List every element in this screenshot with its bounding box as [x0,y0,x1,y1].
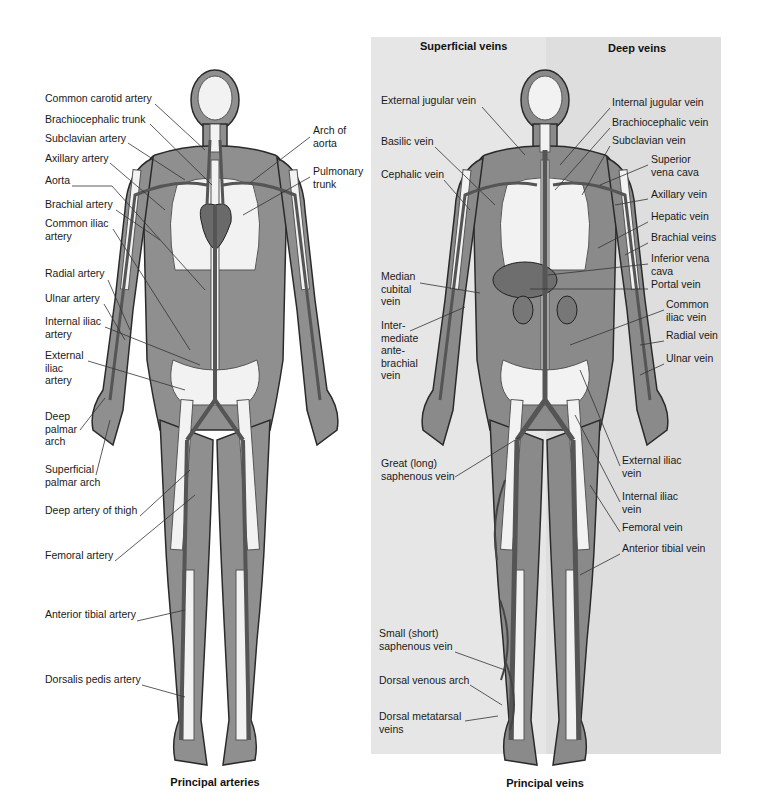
vein-label: Inter- mediate ante- brachial vein [381,319,418,382]
vein-label: External jugular vein [381,94,476,107]
artery-label: Radial artery [45,267,105,280]
artery-label: Axillary artery [45,152,109,165]
vein-label: Cephalic vein [381,168,444,181]
vein-label: Hepatic vein [651,210,709,223]
vein-label: Brachiocephalic vein [612,116,708,129]
vein-label: Dorsal metatarsal veins [379,710,461,735]
artery-label: Dorsalis pedis artery [45,673,141,686]
veins-caption: Principal veins [480,777,610,789]
artery-label: Femoral artery [45,549,113,562]
vein-label: Common iliac vein [666,298,709,323]
arteries-caption: Principal arteries [150,776,280,788]
artery-label: Pulmonary trunk [313,165,363,190]
vein-label: Basilic vein [381,135,434,148]
deep-veins-header: Deep veins [608,42,666,54]
artery-label: Deep artery of thigh [45,504,137,517]
artery-label: Common iliac artery [45,217,109,242]
vein-label: Superior vena cava [651,153,699,178]
vein-label: Femoral vein [622,521,683,534]
artery-label: Superficial palmar arch [45,463,100,488]
vein-label: Dorsal venous arch [379,674,469,687]
vein-label: Subclavian vein [612,134,686,147]
artery-label: Subclavian artery [45,132,126,145]
vein-label: Ulnar vein [666,352,713,365]
vein-label: Small (short) saphenous vein [379,627,453,652]
artery-label: Arch of aorta [313,124,346,149]
artery-label: Brachiocephalic trunk [45,113,145,126]
artery-label: Anterior tibial artery [45,608,136,621]
artery-label: Brachial artery [45,198,113,211]
vein-label: Radial vein [666,329,718,342]
artery-label: Ulnar artery [45,292,100,305]
vein-label: Axillary vein [651,188,707,201]
veins-figure [422,70,668,765]
artery-label: Aorta [45,174,70,187]
vein-label: External iliac vein [622,454,682,479]
vein-label: Portal vein [651,278,701,291]
vein-label: Anterior tibial vein [622,542,705,555]
vein-label: Internal iliac vein [622,490,678,515]
arteries-figure [92,70,338,765]
artery-label: Deep palmar arch [45,410,77,448]
artery-label: External iliac artery [45,349,84,387]
artery-label: Common carotid artery [45,92,152,105]
vein-label: Median cubital vein [381,270,415,308]
superficial-veins-header: Superficial veins [420,40,507,52]
artery-label: Internal iliac artery [45,315,101,340]
vein-label: Internal jugular vein [612,96,704,109]
vein-label: Great (long) saphenous vein [381,457,455,482]
vein-label: Brachial veins [651,231,716,244]
vein-label: Inferior vena cava [651,252,709,277]
